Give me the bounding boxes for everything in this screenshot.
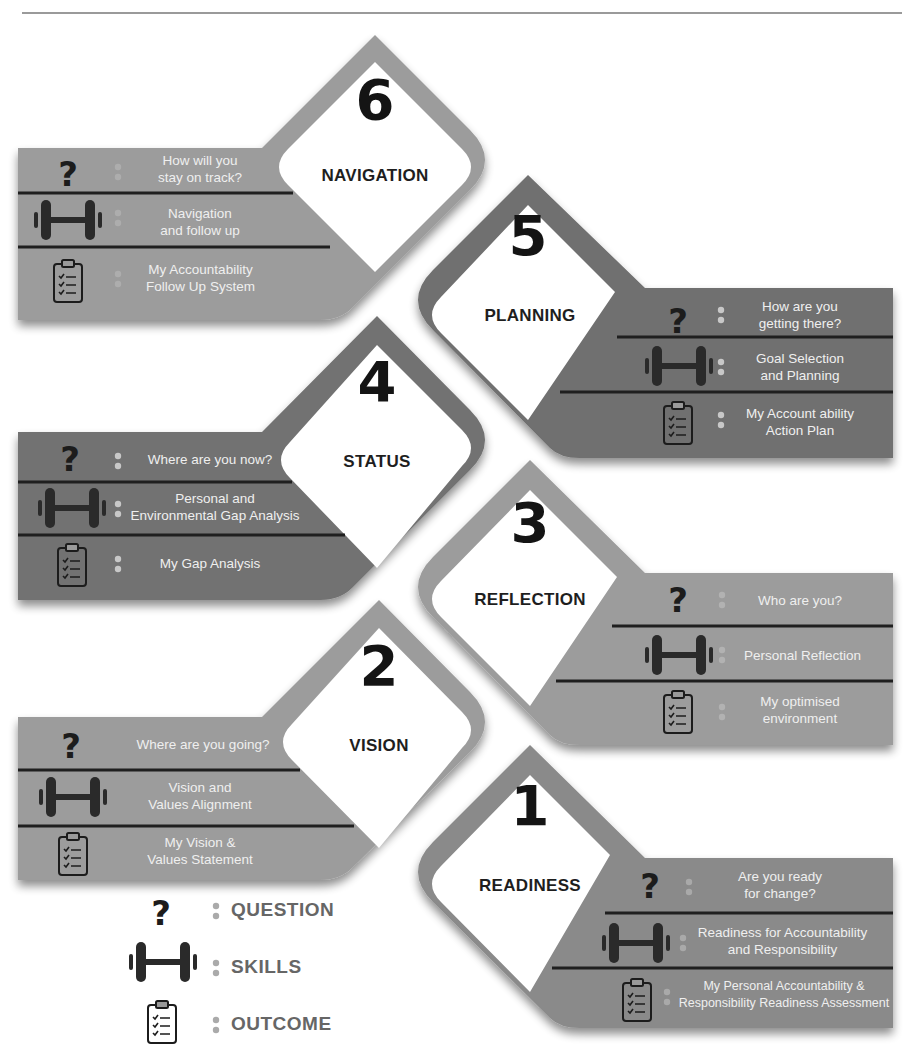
step-4-question: Where are you now? (135, 451, 285, 468)
step-1-skills: Readiness for Accountability and Respons… (685, 924, 880, 958)
step-6-outcome: My Accountability Follow Up System (128, 261, 273, 295)
step-2-skills: Vision and Values Alignment (135, 779, 265, 813)
step-5-title: PLANNING (460, 306, 600, 326)
step-3-outcome: My optimised environment (735, 693, 865, 727)
step-6-question: How will you stay on track? (135, 152, 265, 186)
step-6-title: NAVIGATION (305, 166, 445, 186)
question-mark-icon (61, 726, 81, 766)
step-4-outcome: My Gap Analysis (135, 555, 285, 572)
question-mark-icon (640, 866, 660, 906)
step-3-number: 3 (500, 495, 560, 551)
step-5-number: 5 (498, 208, 558, 264)
step-1-question: Are you ready for change? (720, 868, 840, 902)
legend-clipboard-icon (148, 1001, 176, 1043)
step-3-skills: Personal Reflection (735, 647, 870, 664)
step-1-title: READINESS (455, 876, 605, 896)
step-1-outcome: My Personal Accountability & Responsibil… (672, 978, 896, 1012)
step-4-title: STATUS (307, 452, 447, 472)
question-mark-icon (668, 301, 688, 341)
legend-outcome-label: OUTCOME (231, 1013, 332, 1035)
step-5-outcome: My Account ability Action Plan (730, 405, 870, 439)
step-2-question: Where are you going? (128, 736, 278, 753)
step-5-skills: Goal Selection and Planning (735, 350, 865, 384)
step-2-outcome: My Vision & Values Statement (135, 834, 265, 868)
legend-skills-label: SKILLS (231, 956, 302, 978)
step-5-question: How are you getting there? (735, 298, 865, 332)
legend-dumbbell-icon (129, 942, 197, 982)
step-2-number: 2 (349, 638, 409, 694)
step-6-number: 6 (345, 72, 405, 128)
step-2-title: VISION (309, 736, 449, 756)
step-3-title: REFLECTION (455, 590, 605, 610)
question-mark-icon (58, 154, 78, 194)
question-mark-icon (60, 439, 80, 479)
step-6-skills: Navigation and follow up (135, 205, 265, 239)
question-mark-icon (668, 580, 688, 620)
legend-question-label: QUESTION (231, 899, 334, 921)
step-3-question: Who are you? (735, 592, 865, 609)
step-4-number: 4 (347, 354, 407, 410)
step-1-number: 1 (500, 778, 560, 834)
step-4-skills: Personal and Environmental Gap Analysis (120, 490, 310, 524)
legend-question-icon (151, 893, 171, 933)
